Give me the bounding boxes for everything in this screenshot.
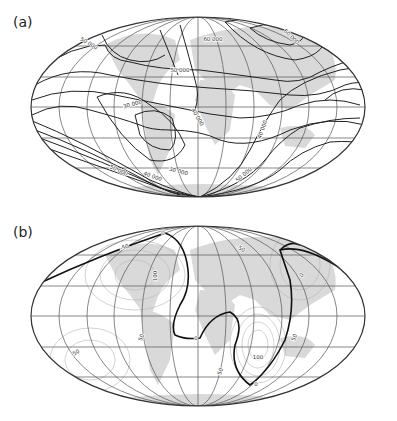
contour-label: 50 [216,367,224,376]
landmass-group [105,27,336,215]
contour-label: 0 [161,230,165,236]
contour-label: 50 [71,348,80,357]
landmass-group-b [105,237,336,421]
contour-label: 100 [253,354,264,360]
contour-label: 0 [194,335,198,341]
contour-label: 30 000 [168,166,189,177]
contour-label: 50 000 [170,67,190,73]
map-panel-b: 0-50100-5000505010050500 [0,200,397,421]
contour-label: 100 [152,270,158,281]
map-panel-a: 50 00060 00060 00050 00030 00040 00040 0… [0,0,397,215]
contour-label: 60 000 [203,36,223,42]
contour-label: 50 000 [109,163,129,177]
contour-label: 40 000 [256,119,268,140]
contour-label: 0 [254,381,258,387]
contour-label: 30 000 [122,99,143,110]
